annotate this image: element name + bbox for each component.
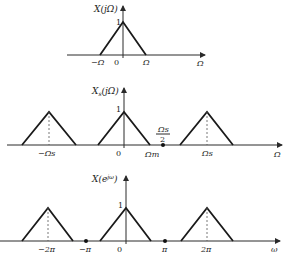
x-axis-label: Ω (273, 150, 281, 159)
fraction-numerator: Ωs (157, 125, 169, 134)
dot-marker (84, 239, 88, 243)
peak-label: 1 (116, 18, 121, 27)
tick-label: −Ωs (38, 149, 55, 158)
origin-label: 0 (114, 58, 119, 67)
origin-label: 0 (116, 149, 121, 158)
tick-label: −Ω (91, 58, 105, 67)
plot-continuous: X(jΩ) 1 0 −Ω Ω Ω (67, 4, 205, 68)
origin-label: 0 (117, 245, 122, 254)
peak-label: 1 (116, 105, 121, 114)
tick-label: −π (79, 245, 92, 254)
x-axis-label: ω (271, 245, 278, 254)
plot-title: X(ejω) (91, 173, 118, 184)
tick-label: −2π (38, 245, 56, 254)
triangle (22, 208, 73, 241)
peak-label: 1 (118, 201, 123, 210)
plot-title: X(jΩ) (93, 4, 118, 14)
dot-marker (163, 239, 167, 243)
tick-label: 2π (200, 245, 212, 254)
plot-sampled: Xs(jΩ) 1 0 −Ωs Ωm Ωs Ωs 2 Ω (7, 86, 282, 159)
tick-label: Ωs (201, 149, 213, 158)
tick-label: π (161, 245, 168, 254)
tick-label: Ω (142, 58, 150, 67)
plot-dtft: X(ejω) 1 0 −2π −π π 2π ω (0, 173, 280, 254)
plot-title: Xs(jΩ) (91, 86, 119, 97)
spectrum-diagram: X(jΩ) 1 0 −Ω Ω Ω Xs(jΩ) 1 0 −Ωs Ωm Ωs Ωs… (0, 0, 296, 266)
tick-label: Ωm (144, 150, 160, 159)
triangle (180, 112, 233, 145)
x-axis-label: Ω (196, 59, 204, 68)
fraction-denominator: 2 (160, 135, 165, 144)
